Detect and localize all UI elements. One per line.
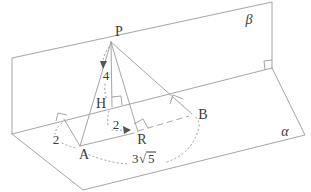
plane-alpha-outline: [12, 68, 305, 190]
point-label-H: H: [96, 96, 106, 111]
segment-PB: [111, 42, 192, 114]
right-angle-mark-at-H: [112, 96, 122, 105]
segment-PH: [111, 42, 112, 107]
segment-PA: [80, 42, 111, 146]
diagram-canvas: P A B H R β α 4 2 2 3 √ 5: [0, 0, 311, 192]
point-label-B: B: [198, 107, 207, 122]
leader-2HR-upper: [108, 111, 109, 125]
leader-2HR-arrowhead: [123, 126, 131, 134]
planes-intersection-line: [12, 68, 272, 134]
radicand: 5: [148, 151, 155, 166]
measure-label-AB-3sqrt5: 3 √ 5: [132, 151, 156, 166]
leader-AB-right-arc: [167, 117, 199, 162]
segment-A-to-edge-foot: [64, 119, 80, 146]
plane-label-alpha: α: [281, 124, 289, 139]
plane-beta-outline: [12, 2, 272, 134]
radical-coefficient: 3: [132, 151, 139, 166]
measure-label-PH-4: 4: [103, 68, 110, 83]
leader-2A-lower: [62, 143, 77, 148]
measure-label-HR-2: 2: [113, 117, 120, 132]
segment-AR: [80, 133, 134, 146]
geometry-diagram: P A B H R β α 4 2 2 3 √ 5: [0, 0, 311, 192]
measure-label-edge-2: 2: [53, 132, 60, 147]
plane-label-beta: β: [245, 12, 253, 27]
point-label-P: P: [115, 24, 123, 39]
leader-AB-left-arc: [85, 153, 128, 164]
right-angle-mark-at-edge-foot: [56, 113, 67, 121]
radical-symbol: √: [139, 151, 147, 166]
point-label-A: A: [79, 147, 90, 162]
point-label-R: R: [137, 132, 147, 147]
